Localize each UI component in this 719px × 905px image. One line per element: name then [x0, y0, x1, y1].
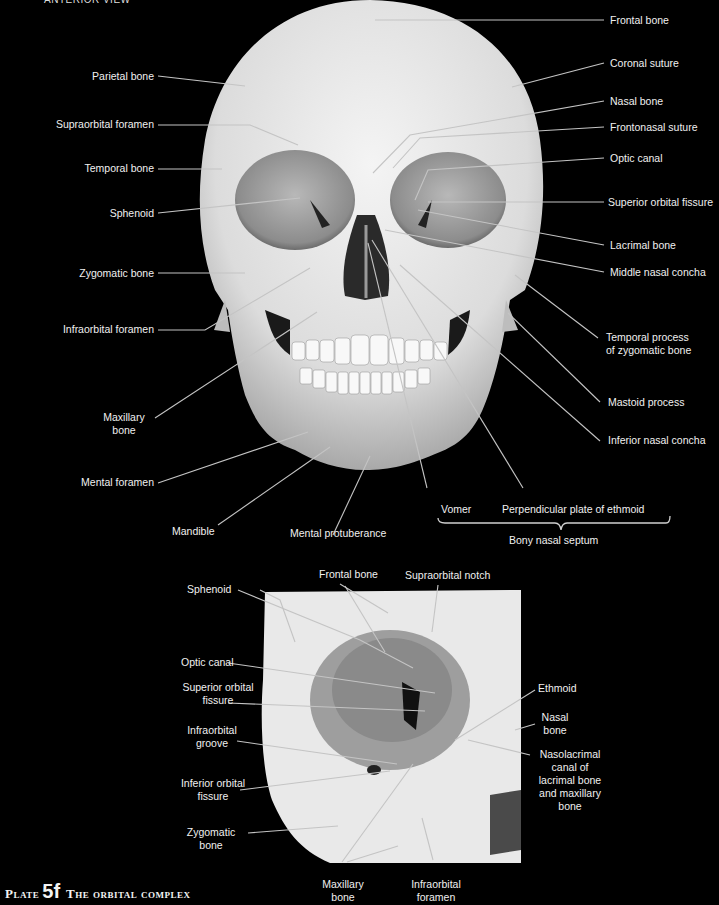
inset-label-sphenoid: Sphenoid: [187, 583, 231, 596]
plate-number: 5f: [42, 880, 60, 902]
inset-label-superior-orbital-fissure: Superior orbital fissure: [168, 681, 268, 707]
label-lacrimal-bone: Lacrimal bone: [610, 239, 676, 252]
inset-label-optic-canal: Optic canal: [181, 656, 234, 669]
label-temporal-bone: Temporal bone: [60, 162, 154, 175]
inset-label-infraorbital-foramen: Infraorbital foramen: [400, 878, 472, 904]
inset-label-zygomatic-bone: Zygomatic bone: [178, 826, 244, 852]
label-mental-foramen: Mental foramen: [40, 476, 154, 489]
label-frontonasal-suture: Frontonasal suture: [610, 121, 698, 134]
label-inferior-nasal-concha: Inferior nasal concha: [608, 434, 705, 447]
inset-label-ethmoid: Ethmoid: [538, 682, 577, 695]
label-nasal-bone: Nasal bone: [610, 95, 663, 108]
label-maxillary-bone: Maxillary bone: [96, 411, 152, 437]
inset-label-supraorbital-notch: Supraorbital notch: [405, 569, 490, 582]
label-zygomatic-bone: Zygomatic bone: [50, 267, 154, 280]
label-optic-canal: Optic canal: [610, 152, 663, 165]
label-vomer: Vomer: [441, 503, 471, 516]
orbit-inset-photo: [262, 590, 521, 863]
label-sphenoid: Sphenoid: [60, 207, 154, 220]
label-superior-orbital-fissure: Superior orbital fissure: [608, 196, 713, 209]
plate-word: Plate: [5, 886, 39, 901]
septum-brace: [438, 516, 670, 530]
skull-anterior-view: [200, 0, 543, 470]
label-frontal-bone: Frontal bone: [610, 14, 669, 27]
label-mental-protuberance: Mental protuberance: [290, 527, 386, 540]
label-middle-nasal-concha: Middle nasal concha: [610, 266, 706, 279]
label-perpendicular-plate: Perpendicular plate of ethmoid: [502, 503, 644, 516]
label-mastoid-process: Mastoid process: [608, 396, 684, 409]
label-temporal-process-zygomatic: Temporal process of zygomatic bone: [606, 331, 691, 357]
inset-label-nasolacrimal-canal: Nasolacrimal canal of lacrimal bone and …: [524, 748, 616, 813]
label-supraorbital-foramen: Supraorbital foramen: [30, 118, 154, 131]
label-infraorbital-foramen: Infraorbital foramen: [30, 323, 154, 336]
inset-label-frontal-bone: Frontal bone: [319, 568, 378, 581]
label-bony-nasal-septum: Bony nasal septum: [509, 534, 598, 547]
label-mandible: Mandible: [172, 525, 215, 538]
label-parietal-bone: Parietal bone: [60, 70, 154, 83]
plate-title: The orbital complex: [66, 886, 191, 901]
label-coronal-suture: Coronal suture: [610, 57, 679, 70]
inset-label-infraorbital-groove: Infraorbital groove: [178, 724, 246, 750]
inset-label-nasal-bone: Nasal bone: [533, 711, 577, 737]
inset-label-inferior-orbital-fissure: Inferior orbital fissure: [168, 777, 258, 803]
inset-label-maxillary-bone: Maxillary bone: [305, 878, 381, 904]
plate-caption: Plate5fThe orbital complex: [5, 880, 191, 903]
